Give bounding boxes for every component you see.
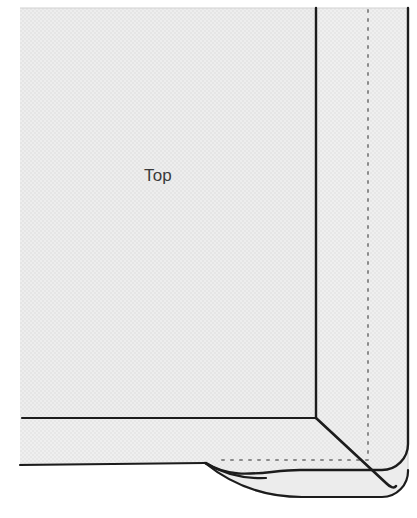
diagram-canvas: Top — [0, 0, 417, 518]
top-label: Top — [144, 166, 172, 185]
fabric-body — [20, 8, 408, 497]
right-hem-band — [316, 8, 408, 470]
mitered-corner-figure: Top — [0, 0, 417, 518]
